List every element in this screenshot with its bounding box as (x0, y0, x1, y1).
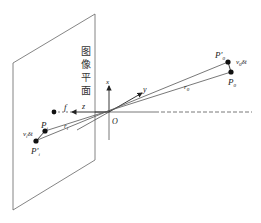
r0-label: r0 (184, 83, 190, 92)
projection-diagram: 图 像 平 面 x y z O f P'0 P0 v0δt r0 Pi P'i … (0, 0, 261, 223)
plane-label-2: 像 (81, 59, 91, 70)
x-axis-label: x (105, 78, 110, 86)
ray-p0 (45, 72, 231, 131)
plane-label-4: 面 (81, 85, 91, 96)
diagram-canvas: 图 像 平 面 x y z O f P'0 P0 v0δt r0 Pi P'i … (0, 0, 261, 223)
point-p0-prime (225, 59, 230, 64)
ray-extension (77, 112, 109, 130)
vi-dt-label: viδt (23, 130, 34, 139)
y-axis-label: y (142, 85, 147, 94)
pi-prime-label: P'i (30, 146, 40, 157)
p0-label: P0 (227, 77, 237, 88)
origin-label: O (112, 117, 118, 126)
z-axis-label: z (81, 102, 86, 111)
point-p0 (228, 69, 233, 74)
plane-label-1: 图 (81, 46, 91, 57)
point-pi-prime (33, 138, 38, 143)
v0-dt-label: v0δt (236, 58, 248, 67)
ri-label: ri (64, 122, 69, 131)
focal-point (52, 110, 57, 115)
p0-prime-label: P'0 (214, 50, 225, 61)
pi-label: Pi (40, 120, 49, 131)
plane-label-3: 平 (81, 72, 91, 83)
focal-label: f (64, 102, 68, 112)
